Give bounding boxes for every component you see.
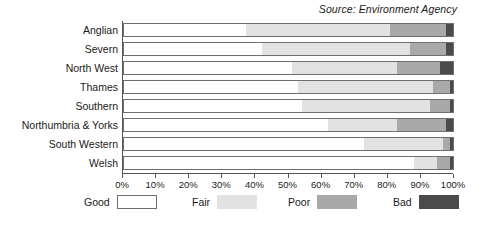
legend-label: Poor [288,196,310,208]
x-axis-tick-label: 60% [311,179,330,190]
category-label: Northumbria & Yorks [0,116,118,135]
legend-item-poor[interactable]: Poor [288,193,357,211]
bar-segment-good [124,24,246,36]
legend-item-bad[interactable]: Bad [393,193,459,211]
x-axis-tick [122,174,123,178]
bar-row [123,116,454,135]
bar-segment-good [124,138,364,150]
bar-segment-poor [437,157,450,169]
stacked-bar [123,99,454,113]
legend-label: Bad [393,196,412,208]
x-axis-tick-label: 0% [115,179,129,190]
source-note: Source: Environment Agency [319,3,457,15]
bar-segment-poor [390,24,446,36]
x-axis-tick [453,174,454,178]
legend-item-good[interactable]: Good [84,193,157,211]
stacked-bar [123,23,454,37]
bar-segment-poor [410,43,446,55]
bar-row [123,40,454,59]
x-axis-tick [387,174,388,178]
stacked-bar [123,80,454,94]
stacked-bar [123,61,454,75]
bar-segment-bad [450,100,453,112]
bar-segment-poor [430,100,450,112]
legend-label: Fair [192,196,210,208]
bar-segment-fair [364,138,443,150]
x-axis-tick-label: 40% [245,179,264,190]
x-axis-tick [321,174,322,178]
bar-segment-fair [262,43,410,55]
bar-segment-fair [246,24,391,36]
bar-row [123,154,454,173]
bar-segment-bad [450,81,453,93]
stacked-bar [123,42,454,56]
legend-swatch-good [117,195,157,209]
x-axis-tick-label: 10% [146,179,165,190]
bar-segment-good [124,43,262,55]
bar-row [123,21,454,40]
legend-swatch-bad [419,195,459,209]
x-axis-tick [288,174,289,178]
bar-segment-poor [433,81,449,93]
x-axis-tick [188,174,189,178]
bar-segment-good [124,157,414,169]
bar-segment-bad [446,24,453,36]
x-axis-tick-label: 50% [278,179,297,190]
category-label: South Western [0,135,118,154]
bar-segment-bad [446,119,453,131]
x-axis-tick-label: 70% [344,179,363,190]
bar-segment-poor [443,138,450,150]
bar-segment-bad [446,43,453,55]
bar-row [123,135,454,154]
bar-segment-bad [440,62,453,74]
category-label: Thames [0,78,118,97]
legend-swatch-fair [217,195,257,209]
x-axis-tick [254,174,255,178]
bar-segment-fair [328,119,397,131]
bar-segment-good [124,119,328,131]
legend-swatch-poor [317,195,357,209]
bar-row [123,78,454,97]
bar-segment-good [124,81,298,93]
plot-area [122,21,454,173]
legend-item-fair[interactable]: Fair [192,193,257,211]
bar-segment-poor [397,119,446,131]
bar-segment-fair [302,100,430,112]
bar-row [123,97,454,116]
stacked-bar-chart-figure: Source: Environment Agency AnglianSevern… [0,0,479,225]
bar-segment-fair [414,157,437,169]
x-axis-tick-label: 20% [179,179,198,190]
bar-segment-fair [292,62,397,74]
x-axis-tick-label: 30% [212,179,231,190]
x-axis-tick [155,174,156,178]
x-axis-tick [354,174,355,178]
category-axis-labels: AnglianSevernNorth WestThamesSouthernNor… [0,21,118,173]
category-label: Welsh [0,154,118,173]
bar-segment-bad [450,157,453,169]
x-axis-tick [221,174,222,178]
legend-label: Good [84,196,110,208]
stacked-bar [123,118,454,132]
x-axis-tick-label: 90% [410,179,429,190]
category-label: Anglian [0,21,118,40]
bar-segment-bad [450,138,453,150]
category-label: North West [0,59,118,78]
x-axis-tick-label: 100% [441,179,465,190]
stacked-bar [123,156,454,170]
category-label: Southern [0,97,118,116]
stacked-bar [123,137,454,151]
bar-segment-fair [298,81,433,93]
chart-legend: GoodFairPoorBad [0,193,479,217]
bar-segment-good [124,100,302,112]
x-axis: 0%10%20%30%40%50%60%70%80%90%100% [122,173,453,192]
category-label: Severn [0,40,118,59]
bar-segment-good [124,62,292,74]
x-axis-tick [420,174,421,178]
bar-segment-poor [397,62,440,74]
x-axis-tick-label: 80% [377,179,396,190]
bar-row [123,59,454,78]
